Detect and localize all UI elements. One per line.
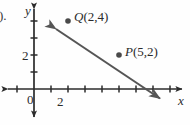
point-q-coords: (2,4): [83, 9, 108, 24]
item-marker: ).: [0, 9, 7, 22]
coordinate-plane-figure: ). y x 0 2 2 Q(2,4) P(5,2): [0, 0, 190, 125]
y-axis-label: y: [25, 4, 31, 17]
point-p-annotation: P(5,2): [125, 45, 158, 58]
y-tick-label-2: 2: [22, 49, 29, 62]
point-q-annotation: Q(2,4): [74, 10, 108, 23]
x-axis-label: x: [178, 94, 184, 107]
point-p-coords: (5,2): [133, 44, 158, 59]
origin-label: 0: [27, 93, 34, 106]
point-q: [65, 18, 71, 24]
x-tick-label-2: 2: [57, 95, 64, 108]
point-q-name: Q: [74, 9, 83, 24]
point-p: [116, 52, 122, 58]
plotted-line: [56, 29, 160, 99]
point-p-name: P: [125, 44, 133, 59]
